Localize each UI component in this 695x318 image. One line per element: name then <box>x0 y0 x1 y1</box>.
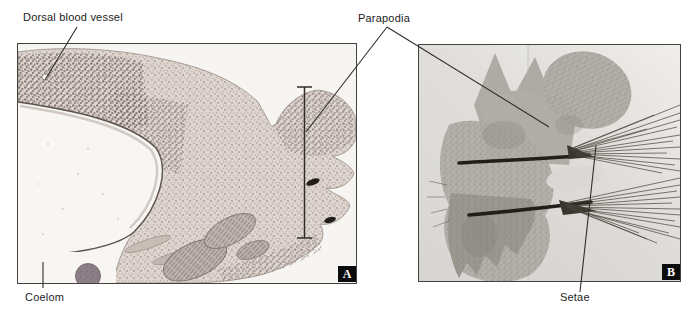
ventral-white-space <box>18 252 116 283</box>
label-parapodia: Parapodia <box>358 12 410 24</box>
panel-a-badge: A <box>338 266 356 282</box>
figure-annelid-parapodia: % <box>0 0 695 318</box>
label-coelom: Coelom <box>25 291 64 303</box>
label-setae: Setae <box>560 291 590 303</box>
panel-b-micrograph <box>418 44 681 282</box>
micrograph-a-cross-section: % <box>18 44 356 283</box>
label-dorsal-blood-vessel: Dorsal blood vessel <box>23 11 123 23</box>
micrograph-b-parapodium <box>419 45 680 281</box>
dorsal-blood-vessel-lumen <box>42 74 48 80</box>
panel-a-micrograph: % <box>17 43 357 284</box>
panel-b-badge: B <box>662 264 680 280</box>
